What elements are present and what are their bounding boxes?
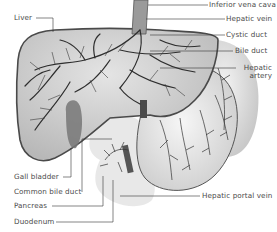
label-liver: Liver: [14, 14, 32, 22]
label-gall-bladder: Gall bladder: [14, 173, 59, 181]
label-common-bile-duct: Common bile duct: [14, 188, 81, 196]
label-hepatic-artery-line2: artery: [238, 72, 272, 80]
label-hepatic-portal-vein: Hepatic portal vein: [202, 192, 272, 200]
label-duodenum: Duodenum: [14, 218, 54, 226]
label-hepatic-artery: Hepatic artery: [238, 64, 272, 80]
label-cystic-duct: Cystic duct: [226, 31, 267, 39]
label-pancreas: Pancreas: [14, 202, 47, 210]
label-hepatic-vein: Hepatic vein: [226, 15, 272, 23]
label-bile-duct: Bile duct: [235, 47, 267, 55]
portal-vein-shape: [140, 100, 147, 118]
label-inferior-vena-cava: Inferior vena cava: [209, 1, 276, 9]
inferior-vena-cava-shape: [132, 0, 148, 34]
